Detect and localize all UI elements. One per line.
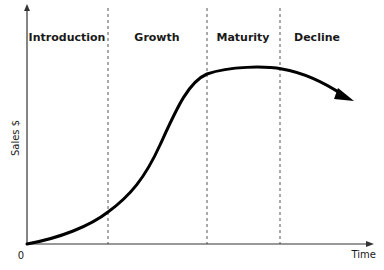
y-axis-label: Sales $	[10, 120, 21, 156]
sales-curve	[27, 67, 343, 244]
y-axis-arrow-icon	[24, 4, 30, 11]
origin-label: 0	[18, 250, 24, 261]
product-life-cycle-chart: Introduction Growth Maturity Decline 0 T…	[0, 0, 384, 270]
stage-label-maturity: Maturity	[216, 31, 269, 44]
stage-label-growth: Growth	[134, 31, 179, 44]
x-axis-label: Time	[351, 249, 376, 260]
stage-label-decline: Decline	[294, 31, 340, 44]
x-axis-arrow-icon	[366, 241, 374, 247]
stage-label-introduction: Introduction	[29, 31, 106, 44]
